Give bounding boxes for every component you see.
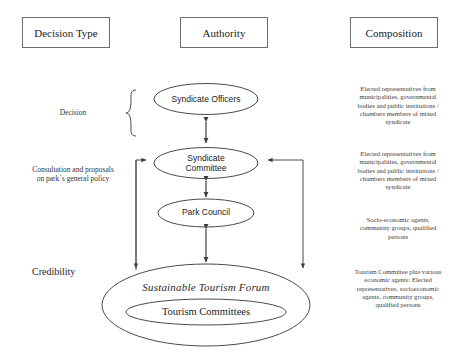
diagram-canvas: Decision Type Authority Composition [0, 0, 456, 361]
header-label-authority: Authority [203, 27, 246, 39]
header-label-composition: Composition [366, 27, 423, 39]
brace-decision [126, 90, 136, 136]
header-box-composition: Composition [350, 17, 438, 48]
right-label-composition-committee: Elected representatives from municipalit… [352, 150, 444, 191]
header-label-decision-type: Decision Type [34, 27, 98, 39]
node-label-syndicate-officers: Syndicate Officers [154, 91, 258, 108]
node-label-park-council: Park Council [160, 205, 252, 221]
node-label-syndicate-committee: Syndicate Committee [166, 153, 246, 175]
left-label-consultation: Consultation and proposals on park`s gen… [28, 165, 118, 183]
left-label-credibility: Credibility [32, 266, 122, 278]
left-label-decision: Decision [36, 108, 110, 117]
right-label-composition-forum: Tourism Committee plus various economic … [352, 268, 444, 309]
right-label-composition-officers: Elected representatives from municipalit… [352, 85, 444, 126]
connector-left-consultation [136, 160, 146, 270]
right-label-composition-park-council: Socio-economic agents, community groups,… [354, 216, 442, 241]
header-box-decision-type: Decision Type [22, 17, 110, 48]
node-label-sustainable-tourism-forum: Sustainable Tourism Forum [116, 279, 296, 295]
node-label-tourism-committees: Tourism Committees [136, 304, 276, 320]
header-box-authority: Authority [180, 17, 268, 48]
